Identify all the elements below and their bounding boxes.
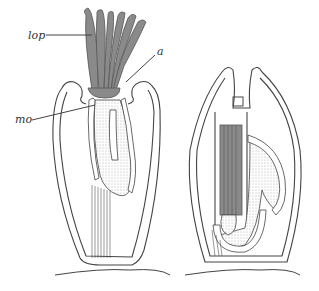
leader-mo: [32, 105, 95, 120]
label-a: a: [157, 45, 164, 58]
substrate-line: [55, 270, 170, 275]
retracted-tentacles: [220, 125, 242, 215]
lophophore-tentacles: [84, 8, 146, 98]
label-lop: lop: [28, 29, 45, 42]
left-zooid: lop a mo: [15, 8, 170, 275]
rim-left: [62, 82, 86, 104]
rim-right: [128, 82, 152, 105]
right-zooid: [185, 67, 301, 275]
neck-fold-right: [222, 67, 262, 108]
retractor-muscle: [92, 185, 110, 258]
substrate-line-right: [185, 270, 300, 275]
label-mo: mo: [15, 113, 32, 126]
diagram-figure: lop a mo: [0, 0, 319, 291]
leader-a: [126, 55, 155, 82]
